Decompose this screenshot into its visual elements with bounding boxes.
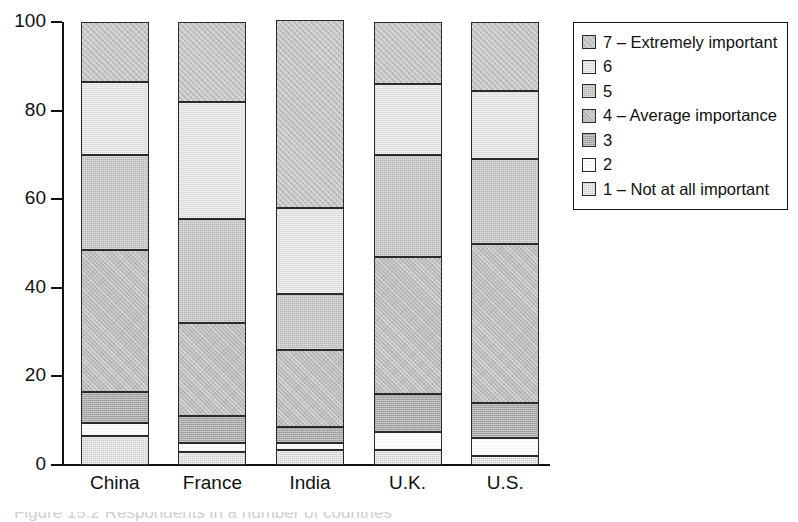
bar-segment-france-6[interactable] xyxy=(178,102,246,219)
y-tick-0 xyxy=(51,464,62,466)
y-tick-40 xyxy=(51,287,62,289)
y-tick-label-80: 80 xyxy=(0,100,46,119)
y-tick-label-40: 40 xyxy=(0,277,46,296)
bar-segment-uk-6[interactable] xyxy=(374,84,442,155)
bar-segment-us-3[interactable] xyxy=(471,403,539,438)
bar-segment-india-3[interactable] xyxy=(276,427,344,443)
legend-item-1[interactable]: 7 – Extremely important xyxy=(582,30,787,55)
figure-caption-text: Figure 15.2 Respondents in a number of c… xyxy=(14,512,392,522)
y-tick-label-60: 60 xyxy=(0,188,46,207)
bar-segment-uk-3[interactable] xyxy=(374,394,442,432)
legend-item-2[interactable]: 6 xyxy=(582,55,787,80)
bar-segment-india-5[interactable] xyxy=(276,294,344,349)
bar-segment-uk-5[interactable] xyxy=(374,155,442,257)
bar-segment-india-7[interactable] xyxy=(276,20,344,208)
y-tick-100 xyxy=(51,21,62,23)
legend-item-label: 5 xyxy=(603,83,612,100)
bar-segment-india-6[interactable] xyxy=(276,208,344,294)
bar-segment-uk-2[interactable] xyxy=(374,432,442,450)
bar-segment-france-5[interactable] xyxy=(178,219,246,323)
bar-segment-china-7[interactable] xyxy=(81,22,149,82)
bar-france[interactable] xyxy=(178,22,246,465)
legend-swatch-icon xyxy=(582,158,596,172)
figure-caption-clipped: Figure 15.2 Respondents in a number of c… xyxy=(0,512,798,522)
legend-item-5[interactable]: 3 xyxy=(582,128,787,153)
legend-item-4[interactable]: 4 – Average importance xyxy=(582,104,787,129)
bar-segment-india-4[interactable] xyxy=(276,350,344,428)
stacked-bar-chart: 020406080100 ChinaFranceIndiaU.K.U.S. 7 … xyxy=(0,0,798,522)
legend-item-label: 4 – Average importance xyxy=(603,107,777,124)
legend-swatch-icon xyxy=(582,84,596,98)
legend-item-3[interactable]: 5 xyxy=(582,79,787,104)
bar-segment-us-6[interactable] xyxy=(471,91,539,160)
bar-segment-us-7[interactable] xyxy=(471,22,539,91)
legend-swatch-icon xyxy=(582,35,596,49)
bar-segment-uk-4[interactable] xyxy=(374,257,442,394)
bar-segment-us-1[interactable] xyxy=(471,456,539,465)
y-tick-20 xyxy=(51,375,62,377)
legend-item-label: 1 – Not at all important xyxy=(603,181,769,198)
bar-segment-china-6[interactable] xyxy=(81,82,149,155)
bar-segment-china-5[interactable] xyxy=(81,155,149,250)
bar-uk[interactable] xyxy=(374,22,442,465)
bar-segment-china-2[interactable] xyxy=(81,423,149,436)
bar-segment-france-4[interactable] xyxy=(178,323,246,416)
legend-item-7[interactable]: 1 – Not at all important xyxy=(582,177,787,202)
y-tick-label-20: 20 xyxy=(0,365,46,384)
bar-segment-uk-7[interactable] xyxy=(374,22,442,84)
legend-swatch-icon xyxy=(582,182,596,196)
x-axis-label-us: U.S. xyxy=(445,472,565,494)
bar-segment-france-1[interactable] xyxy=(178,452,246,465)
bar-segment-us-5[interactable] xyxy=(471,159,539,243)
plot-area xyxy=(62,22,550,465)
legend-item-6[interactable]: 2 xyxy=(582,153,787,178)
bar-india[interactable] xyxy=(276,22,344,465)
y-tick-label-100: 100 xyxy=(0,11,46,30)
legend-item-label: 6 xyxy=(603,58,612,75)
legend-swatch-icon xyxy=(582,133,596,147)
y-tick-60 xyxy=(51,198,62,200)
bar-segment-uk-1[interactable] xyxy=(374,450,442,466)
bar-segment-france-3[interactable] xyxy=(178,416,246,443)
legend: 7 – Extremely important654 – Average imp… xyxy=(573,22,788,210)
legend-item-label: 3 xyxy=(603,132,612,149)
bar-segment-us-2[interactable] xyxy=(471,438,539,456)
bar-china[interactable] xyxy=(81,22,149,465)
bar-segment-france-7[interactable] xyxy=(178,22,246,102)
bar-segment-china-1[interactable] xyxy=(81,436,149,465)
legend-item-label: 2 xyxy=(603,156,612,173)
bar-segment-china-3[interactable] xyxy=(81,392,149,423)
bar-segment-us-4[interactable] xyxy=(471,244,539,403)
bar-segment-india-1[interactable] xyxy=(276,450,344,466)
y-tick-label-0: 0 xyxy=(0,454,46,473)
bar-segment-india-2[interactable] xyxy=(276,443,344,450)
bar-segment-france-2[interactable] xyxy=(178,443,246,452)
bar-us[interactable] xyxy=(471,22,539,465)
y-tick-80 xyxy=(51,110,62,112)
legend-item-label: 7 – Extremely important xyxy=(603,34,777,51)
legend-swatch-icon xyxy=(582,109,596,123)
bar-segment-china-4[interactable] xyxy=(81,250,149,392)
legend-swatch-icon xyxy=(582,60,596,74)
